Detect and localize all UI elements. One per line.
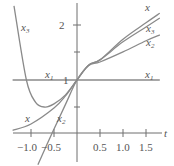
label-x3-left: x3 — [20, 21, 30, 35]
label-x-right: x — [144, 1, 150, 13]
label-x2-left: x2 — [56, 112, 66, 126]
t-tick-label-1.5: 1.5 — [139, 141, 153, 153]
t-axis-label: t — [164, 127, 168, 139]
series-x-curve — [13, 13, 160, 130]
t-tick-label-1.0: 1.0 — [116, 141, 130, 153]
label-x3-right: x3 — [145, 22, 155, 36]
y-tick-label-1: 1 — [63, 74, 69, 86]
y-tick-label-2: 2 — [59, 19, 65, 31]
t-tick-label-m1.0: −1.0 — [17, 141, 37, 153]
label-x-left: x — [24, 112, 30, 124]
t-tick-label-m0.5: −0.5 — [41, 141, 61, 153]
label-x1-left: x1 — [44, 68, 53, 82]
t-tick-label-0.5: 0.5 — [93, 141, 107, 153]
label-x1-right: x1 — [144, 68, 153, 82]
series-x3-curve — [14, 6, 160, 107]
chart: 2 1 −1.0 −0.5 0.5 1.0 1.5 t x3 x1 x1 x x… — [0, 0, 174, 166]
